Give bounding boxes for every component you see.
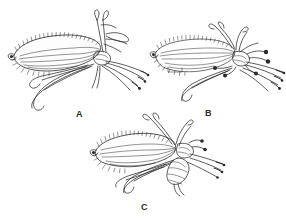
specimen-a-wing [8,32,100,76]
figure-plate: A [0,0,286,224]
specimen-c-wing [90,131,176,173]
specimen-b-wing [150,35,235,75]
panel-label-a: A [76,110,83,119]
insect-specimen-c [86,112,226,208]
specimen-a-tail [92,66,100,88]
panel-label-c: C [141,203,148,212]
insect-specimen-b [148,22,286,118]
insect-specimen-a [0,8,150,116]
